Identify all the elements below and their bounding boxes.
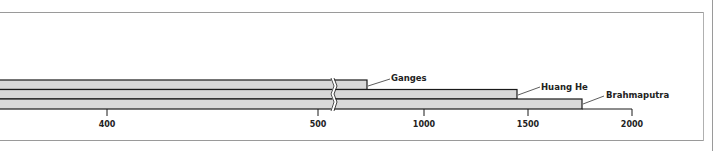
tick-label-1000: 1000 [413,120,436,129]
bar-chart: 400 500 1000 1500 2000 Ganges Huang He B… [0,0,714,151]
x-axis-ticks [107,109,632,116]
bar-brahmaputra [0,99,582,109]
tick-label-1500: 1500 [517,120,540,129]
bar-label-ganges: Ganges [391,73,427,83]
bar-ganges [0,80,367,90]
tick-label-500: 500 [310,120,327,129]
bar-label-brahmaputra: Brahmaputra [606,90,669,100]
bar-label-huang-he: Huang He [541,82,588,92]
bar-huang-he [0,90,517,100]
tick-label-2000: 2000 [621,120,644,129]
tick-label-400: 400 [99,120,116,129]
